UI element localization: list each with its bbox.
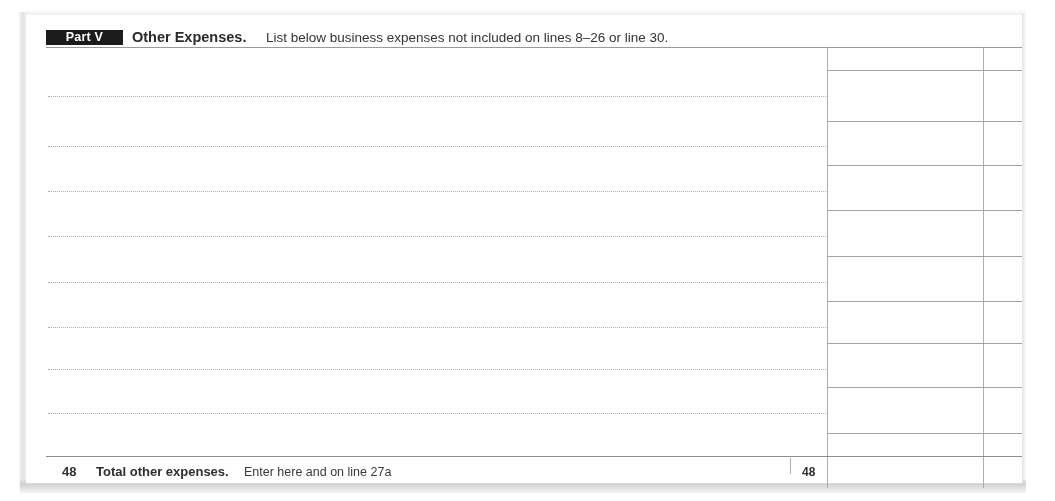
total-row-label: Total other expenses. <box>96 464 229 479</box>
amount-cents-cell[interactable] <box>984 257 1022 300</box>
amount-dollars-cell[interactable] <box>828 302 982 342</box>
amount-dollars-cell[interactable] <box>828 122 982 164</box>
amount-dollars-cell[interactable] <box>828 388 982 432</box>
form-sheet: Part V Other Expenses. List below busine… <box>26 15 1022 483</box>
amount-dollars-cell[interactable] <box>828 344 982 386</box>
expense-description-line[interactable] <box>48 235 828 237</box>
total-row-divider <box>46 456 1022 457</box>
amount-cents-cell[interactable] <box>984 344 1022 386</box>
amount-cents-cell[interactable] <box>984 166 1022 209</box>
amount-dollars-cell[interactable] <box>828 71 982 120</box>
expense-description-line[interactable] <box>48 95 828 97</box>
amount-dollars-cell[interactable] <box>828 166 982 209</box>
header-divider-rule <box>46 47 1022 48</box>
part-number-badge: Part V <box>46 30 123 45</box>
expense-description-line[interactable] <box>48 326 828 328</box>
total-line-number-left: 48 <box>62 464 76 479</box>
amount-cents-cell[interactable] <box>984 122 1022 164</box>
expense-description-line[interactable] <box>48 281 828 283</box>
amount-dollars-cell[interactable] <box>828 211 982 255</box>
total-amount-cents-cell[interactable] <box>984 458 1022 486</box>
amount-cents-cell[interactable] <box>984 71 1022 120</box>
total-amount-dollars-cell[interactable] <box>828 458 982 486</box>
expense-description-line[interactable] <box>48 190 828 192</box>
amount-cents-cell[interactable] <box>984 388 1022 432</box>
expense-description-line[interactable] <box>48 145 828 147</box>
section-title: Other Expenses. <box>132 29 246 45</box>
total-row-instruction: Enter here and on line 27a <box>244 465 391 479</box>
expense-description-line[interactable] <box>48 412 828 414</box>
amount-cents-cell[interactable] <box>984 211 1022 255</box>
total-line-number-right: 48 <box>802 465 815 479</box>
expense-description-line[interactable] <box>48 368 828 370</box>
section-subtitle: List below business expenses not include… <box>266 30 668 45</box>
part-v-header: Part V Other Expenses. List below busine… <box>26 15 1022 47</box>
amount-row-rule <box>827 433 1022 434</box>
amount-dollars-cell[interactable] <box>828 257 982 300</box>
amount-cents-cell[interactable] <box>984 302 1022 342</box>
total-row-tick-mark <box>790 458 791 474</box>
